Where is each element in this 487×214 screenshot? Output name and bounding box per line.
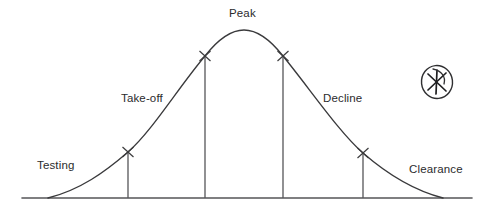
phase-label-testing: Testing [37,159,75,172]
diagram-canvas: Testing Take-off Peak Decline Clearance [0,0,487,214]
bell-curve-path [48,30,443,198]
marker-peak-end [278,51,289,198]
phase-label-peak: Peak [229,7,256,20]
marker-peak-start [200,51,211,198]
phase-label-clearance: Clearance [409,163,463,176]
phase-label-take-off: Take-off [121,92,163,105]
circled-asterisk-icon [420,64,454,100]
bell-curve-diagram [0,0,487,214]
phase-label-decline: Decline [323,92,362,105]
asterisk-stroke-3 [436,70,437,94]
